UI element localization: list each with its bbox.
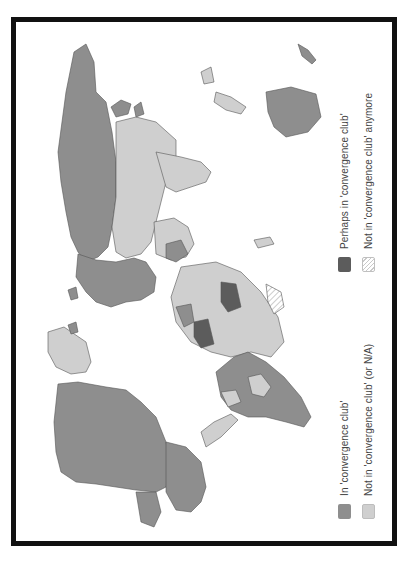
region-usa	[166, 442, 206, 512]
swatch-perhaps	[338, 257, 351, 272]
region-europe	[76, 254, 156, 307]
region-japan	[111, 100, 131, 117]
swatch-not-in-club	[362, 504, 375, 519]
region-russia	[58, 44, 116, 262]
legend-item-in: In 'convergence club'	[338, 401, 351, 519]
region-greenland	[48, 327, 91, 374]
legend-label: In 'convergence club'	[339, 401, 350, 496]
region-uk	[68, 287, 78, 300]
legend-item-notin: Not in 'convergence club' (or N/A)	[362, 344, 375, 519]
map-frame: In 'convergence club' Not in 'convergenc…	[11, 17, 397, 546]
swatch-not-anymore	[362, 257, 375, 272]
region-new-zealand	[298, 44, 316, 64]
legend-label: Not in 'convergence club' (or N/A)	[363, 344, 374, 496]
legend-label: Not in 'convergence club' anymore	[363, 93, 374, 249]
legend-item-anymore: Not in 'convergence club' anymore	[362, 93, 375, 272]
region-philippines	[201, 67, 214, 84]
region-madagascar	[254, 237, 274, 248]
region-indonesia	[214, 92, 246, 114]
region-korea	[134, 102, 144, 117]
legend-item-perhaps: Perhaps in 'convergence club'	[338, 113, 351, 272]
world-map	[16, 22, 392, 541]
swatch-in-club	[338, 504, 351, 519]
region-australia	[266, 87, 321, 137]
legend-label: Perhaps in 'convergence club'	[339, 113, 350, 249]
region-alaska	[136, 492, 161, 527]
region-canada	[54, 382, 171, 492]
region-mexico	[201, 414, 238, 447]
